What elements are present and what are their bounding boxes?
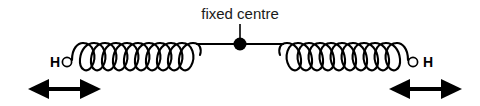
right-arrow-head-west [389, 79, 410, 99]
fixed-centre-label: fixed centre [201, 5, 279, 22]
right-arrow-head-east [441, 79, 462, 99]
right-atom-circle [408, 57, 417, 66]
left-atom-circle [62, 57, 71, 66]
left-spring-coils [80, 43, 201, 70]
fixed-centre-node-dot [234, 38, 247, 51]
left-atom-label: H [50, 54, 60, 70]
spring-diagram-figure: fixed centre [0, 0, 480, 106]
right-oscillation-arrow [389, 79, 462, 99]
right-atom-label: H [423, 54, 433, 70]
diagram-canvas: fixed centre [0, 0, 480, 106]
left-oscillation-arrow [28, 79, 101, 99]
left-arrow-head-west [28, 79, 49, 99]
left-arrow-head-east [80, 79, 101, 99]
right-spring-coils [279, 43, 400, 70]
